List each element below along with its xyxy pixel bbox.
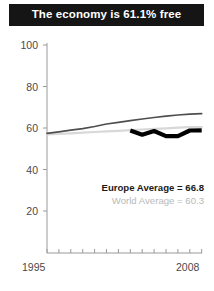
ytick-label-100: 100: [8, 40, 38, 51]
legend-item-world-average: World Average = 60.3: [0, 195, 204, 208]
x-tick-marks: [47, 249, 202, 253]
economic-freedom-chart-card: The economy is 61.1% free: [0, 0, 214, 291]
series-line-country: [130, 130, 201, 136]
plot-area: 100 80 60 40 20 1995 2008 Europe Average…: [0, 0, 214, 291]
xtick-label-end: 2008: [176, 262, 199, 273]
xtick-label-start: 1995: [22, 262, 45, 273]
legend-item-europe-average: Europe Average = 66.8: [0, 182, 204, 195]
ytick-label-60: 60: [8, 123, 38, 134]
ytick-label-80: 80: [8, 82, 38, 93]
chart-legend: Europe Average = 66.8 World Average = 60…: [0, 182, 204, 208]
ytick-label-40: 40: [8, 165, 38, 176]
